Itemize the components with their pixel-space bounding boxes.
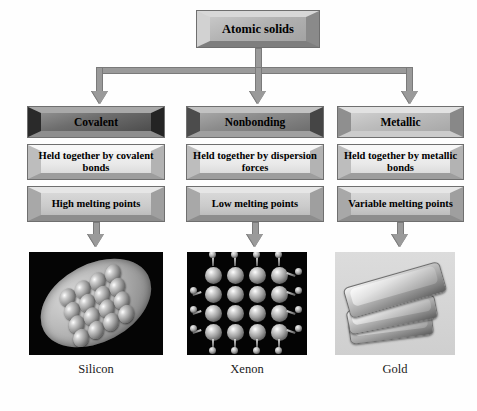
xenon-small-atom: [295, 306, 302, 313]
melting-box-nonbonding-label: Low melting points: [208, 198, 302, 210]
photo-silicon: [29, 252, 163, 355]
melting-box-metallic: Variable melting points: [337, 186, 464, 222]
bonding-box-covalent-label: Held together by covalent bonds: [28, 150, 164, 174]
xenon-small-atom: [295, 268, 302, 275]
bonding-box-nonbonding: Held together by dispersion forces: [186, 144, 324, 180]
connector-branch-metallic: [406, 67, 413, 93]
xenon-bond: [212, 257, 214, 266]
melting-box-nonbonding: Low melting points: [186, 186, 324, 222]
melting-box-metallic-label: Variable melting points: [344, 198, 457, 210]
xenon-cell: [269, 285, 291, 304]
xenon-small-atom: [295, 325, 302, 332]
xenon-atom: [271, 286, 288, 303]
xenon-small-atom: [209, 252, 216, 258]
xenon-small-atom: [231, 252, 238, 258]
arrowhead-covalent-to-photo: [88, 234, 104, 247]
xenon-cell: [225, 304, 247, 323]
xenon-small-atom: [275, 347, 282, 354]
xenon-small-atom: [231, 347, 238, 354]
xenon-cell: [203, 285, 225, 304]
xenon-small-atom: [190, 325, 197, 332]
bonding-box-metallic: Held together by metallic bonds: [337, 144, 464, 180]
arrowhead-to-nonbonding: [250, 91, 266, 104]
arrowhead-to-metallic: [402, 91, 418, 104]
xenon-bond: [278, 257, 280, 266]
xenon-atom: [205, 305, 222, 322]
xenon-cell: [203, 323, 225, 342]
xenon-bond: [234, 257, 236, 266]
xenon-small-atom: [253, 347, 260, 354]
xenon-cell: [225, 285, 247, 304]
xenon-cell: [269, 266, 291, 285]
category-box-nonbonding-label: Nonbonding: [221, 116, 290, 129]
xenon-cell: [269, 323, 291, 342]
xenon-atom: [271, 305, 288, 322]
caption-gold: Gold: [335, 362, 455, 377]
category-box-nonbonding: Nonbonding: [186, 106, 324, 138]
caption-silicon: Silicon: [29, 362, 163, 377]
bonding-box-nonbonding-label: Held together by dispersion forces: [187, 150, 323, 174]
xenon-atom: [249, 305, 266, 322]
photo-xenon: [187, 252, 307, 355]
category-box-covalent: Covalent: [27, 106, 165, 138]
title-box-label: Atomic solids: [218, 22, 298, 36]
xenon-atom: [249, 286, 266, 303]
xenon-cell: [225, 323, 247, 342]
xenon-cell: [225, 266, 247, 285]
category-box-metallic-label: Metallic: [376, 116, 424, 129]
xenon-cell: [247, 304, 269, 323]
photo-gold: [335, 252, 455, 355]
xenon-small-atom: [190, 306, 197, 313]
xenon-bond: [256, 257, 258, 266]
xenon-atom: [205, 267, 222, 284]
arrowhead-metallic-to-photo: [392, 234, 408, 247]
melting-box-covalent: High melting points: [27, 186, 165, 222]
xenon-small-atom: [295, 287, 302, 294]
xenon-cell: [247, 285, 269, 304]
xenon-atom: [205, 286, 222, 303]
xenon-small-atom: [275, 252, 282, 258]
xenon-atom-lattice: [203, 266, 291, 342]
arrowhead-nonbonding-to-photo: [247, 234, 263, 247]
xenon-cell: [269, 304, 291, 323]
xenon-atom: [249, 267, 266, 284]
bonding-box-covalent: Held together by covalent bonds: [27, 144, 165, 180]
atomic-solids-diagram: Atomic solids Covalent Held together by …: [0, 0, 477, 411]
xenon-cell: [203, 266, 225, 285]
xenon-atom: [227, 267, 244, 284]
xenon-cell: [247, 323, 269, 342]
xenon-cell: [203, 304, 225, 323]
xenon-atom: [227, 305, 244, 322]
melting-box-covalent-label: High melting points: [48, 198, 145, 210]
title-box-atomic-solids: Atomic solids: [196, 10, 320, 48]
caption-xenon: Xenon: [187, 362, 307, 377]
xenon-atom: [271, 267, 288, 284]
category-box-metallic: Metallic: [337, 106, 464, 138]
xenon-cell: [247, 266, 269, 285]
connector-branch-nonbonding: [255, 67, 262, 93]
xenon-small-atom: [253, 252, 260, 258]
category-box-covalent-label: Covalent: [70, 116, 122, 129]
xenon-small-atom: [209, 347, 216, 354]
xenon-atom: [227, 286, 244, 303]
bonding-box-metallic-label: Held together by metallic bonds: [338, 150, 463, 174]
connector-branch-covalent: [96, 67, 103, 93]
xenon-small-atom: [190, 287, 197, 294]
arrowhead-to-covalent: [92, 91, 108, 104]
